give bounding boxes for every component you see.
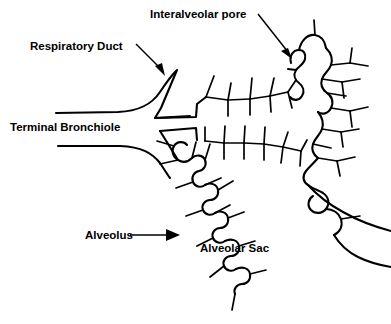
lower-alveolar-sac <box>157 141 266 310</box>
lower-sac-wall-right-lower <box>234 268 250 294</box>
septum <box>318 158 337 161</box>
label-alveolar-sac: Alveolar Sac <box>200 242 270 254</box>
terminal-bronchiole-upper-wall <box>56 71 176 113</box>
label-terminal-bronchiole: Terminal Bronchiole <box>10 121 120 133</box>
septum <box>250 270 266 274</box>
septum <box>341 132 343 147</box>
septum <box>218 181 233 190</box>
terminal-bronchiole-lower-wall <box>58 146 170 178</box>
lower-sac-wall-bottom <box>212 212 228 243</box>
septum <box>337 161 340 176</box>
septum <box>350 107 368 111</box>
upper-sac-top-wall <box>299 35 326 50</box>
label-interalveolar-pore: Interalveolar pore <box>150 8 247 20</box>
septum <box>350 48 352 63</box>
septum <box>270 78 274 96</box>
septum <box>341 129 359 132</box>
annotation-leaders <box>130 14 292 241</box>
upper-sac-left-wall <box>290 50 305 100</box>
septum <box>270 92 288 96</box>
septum <box>337 157 355 161</box>
septum <box>283 147 301 151</box>
septum <box>322 129 341 132</box>
upper-alveolar-sac <box>288 20 368 158</box>
septum <box>205 144 210 160</box>
alveolus-pocket <box>304 158 318 185</box>
lower-sac-wall-left <box>173 142 187 160</box>
septum <box>244 143 264 144</box>
respiratory-duct-upper-wall <box>155 70 190 118</box>
sac-outflow-wall <box>334 235 391 267</box>
septum <box>283 132 288 147</box>
septum <box>232 294 235 310</box>
septum <box>350 111 352 127</box>
septum <box>301 140 307 151</box>
septum <box>350 63 368 66</box>
septum <box>176 182 193 188</box>
label-alveolus: Alveolus <box>85 229 133 241</box>
respiratory-duct-floor <box>155 97 206 118</box>
septum <box>264 144 283 147</box>
septum <box>300 151 301 166</box>
anatomy-diagram: Interalveolar pore Respiratory Duct Term… <box>0 0 391 324</box>
septum <box>228 212 244 218</box>
middle-right-alveoli <box>304 157 391 267</box>
septum <box>313 144 331 148</box>
septum <box>250 78 252 99</box>
upper-septa-group <box>206 76 296 116</box>
septum <box>206 97 228 100</box>
respiratory-duct-structure <box>155 70 206 160</box>
septum <box>206 76 214 97</box>
septum <box>314 20 315 35</box>
septum <box>322 79 342 82</box>
septum <box>228 99 250 100</box>
septum <box>228 83 231 100</box>
septum <box>210 266 224 277</box>
septum <box>331 63 350 65</box>
septum <box>205 141 224 143</box>
septum <box>264 127 265 144</box>
alveolus-pocket-wall-right <box>326 209 342 235</box>
label-respiratory-duct: Respiratory Duct <box>30 40 123 52</box>
respiratory-duct-leader <box>136 44 160 68</box>
septum <box>342 79 360 82</box>
septum <box>250 96 270 99</box>
alveolus-arrowhead <box>166 229 180 241</box>
septum <box>270 96 271 112</box>
upper-sac-right-wall-lower <box>312 112 322 158</box>
septum <box>288 80 296 92</box>
septum <box>160 160 178 164</box>
septum <box>281 147 283 163</box>
septum <box>224 126 225 143</box>
septum <box>244 126 245 143</box>
diagram-canvas: Interalveolar pore Respiratory Duct Term… <box>0 0 391 324</box>
septum <box>186 210 203 216</box>
septum <box>331 108 350 111</box>
interalveolar-pore-leader <box>258 14 288 52</box>
interalveolar-pore-arrowhead <box>281 48 292 59</box>
lower-septa-group <box>205 126 307 166</box>
interalveolar-pore-gap <box>288 69 296 70</box>
septum <box>288 92 292 108</box>
